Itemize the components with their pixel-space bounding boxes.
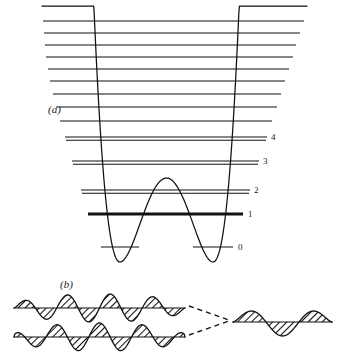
panel-a-label: (a) — [48, 103, 61, 116]
potential-energy-curve — [42, 6, 307, 262]
right-wavefunction-fill — [233, 311, 332, 336]
energy-level-label-4: 4 — [271, 132, 276, 142]
panel-a: 01234 (a) — [42, 6, 307, 262]
energy-level-label-3: 3 — [263, 156, 268, 166]
upper-dash — [189, 306, 229, 320]
energy-level-labels: 01234 — [238, 132, 276, 252]
energy-levels-group — [43, 21, 304, 247]
wavefunctions-group — [14, 294, 332, 350]
energy-level-label-2: 2 — [254, 185, 259, 195]
dashed-connectors-group — [189, 306, 229, 335]
energy-level-label-1: 1 — [248, 209, 253, 219]
panel-b: (b) — [14, 278, 332, 351]
double-well-potential-figure: 01234 (a) (b) — [0, 0, 340, 357]
lower-dash — [189, 321, 229, 335]
panel-b-label: (b) — [60, 278, 73, 291]
energy-level-label-0: 0 — [238, 242, 243, 252]
figure-root: 01234 (a) (b) — [0, 0, 340, 357]
